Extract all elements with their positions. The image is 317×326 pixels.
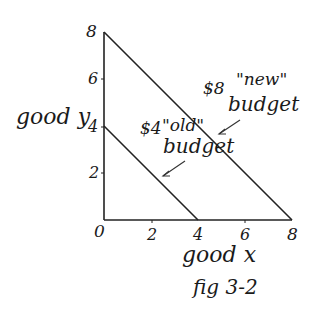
new-budget-price: $8	[203, 78, 225, 98]
old-budget-word: budget	[163, 134, 235, 158]
old-budget-arrow-icon	[163, 161, 185, 176]
old-budget-price: $4	[140, 118, 162, 138]
chart-canvas: 8 6 4 2 0 2 4 6 8 good y good x fig 3-2 …	[0, 0, 317, 326]
y-tick-label-6: 6	[88, 69, 98, 88]
y-tick-label-8: 8	[86, 21, 97, 41]
new-budget-quote: "new"	[236, 69, 287, 89]
old-budget-quote: "old"	[162, 115, 204, 135]
budget-constraint-figure: 8 6 4 2 0 2 4 6 8 good y good x fig 3-2 …	[0, 0, 317, 326]
x-axis-label: good x	[182, 242, 257, 267]
y-axis-label: good y	[16, 104, 91, 129]
y-tick-label-2: 2	[88, 163, 99, 182]
origin-label: 0	[94, 221, 105, 241]
figure-caption: fig 3-2	[191, 275, 258, 299]
x-tick-label-8: 8	[287, 224, 298, 244]
new-budget-word: budget	[228, 92, 300, 116]
x-tick-label-2: 2	[146, 225, 157, 244]
new-budget-arrow-icon	[219, 120, 240, 134]
